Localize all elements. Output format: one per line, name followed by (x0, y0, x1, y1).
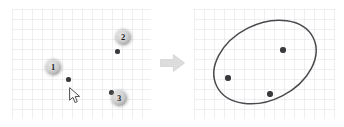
selection-badge-2[interactable]: 2 (116, 30, 131, 45)
mouse-pointer-icon (69, 87, 82, 104)
ellipse-point-2[interactable] (225, 75, 231, 81)
data-point-1[interactable] (66, 77, 71, 82)
ellipse-point-3[interactable] (267, 91, 273, 97)
selection-badge-1[interactable]: 1 (46, 60, 61, 75)
selection-badge-3[interactable]: 3 (112, 91, 127, 106)
figure-canvas: 1 2 3 (0, 0, 344, 127)
data-point-2[interactable] (115, 49, 120, 54)
ellipse-point-1[interactable] (280, 47, 286, 53)
fitted-ellipse-graphic (194, 9, 335, 119)
arrow-right-icon (159, 52, 186, 74)
fitted-ellipse (200, 9, 331, 119)
